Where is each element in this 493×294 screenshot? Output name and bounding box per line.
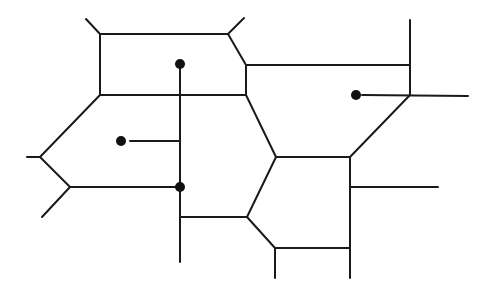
voronoi-diagram (0, 0, 493, 294)
site-center-dot (175, 182, 185, 192)
diagram-background (0, 0, 493, 294)
site-right-dot (351, 90, 361, 100)
edge-line (362, 95, 468, 96)
site-top-dot (175, 59, 185, 69)
site-left-dot (116, 136, 126, 146)
